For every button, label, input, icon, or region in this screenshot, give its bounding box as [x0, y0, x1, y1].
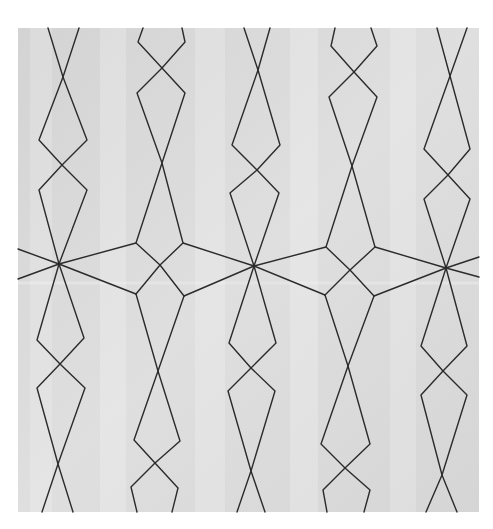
sheen-band	[100, 28, 126, 512]
sheen-band	[390, 28, 416, 512]
quilted-fabric-photo	[0, 0, 493, 529]
sheen-band	[195, 28, 225, 512]
sheen-band	[290, 28, 318, 512]
